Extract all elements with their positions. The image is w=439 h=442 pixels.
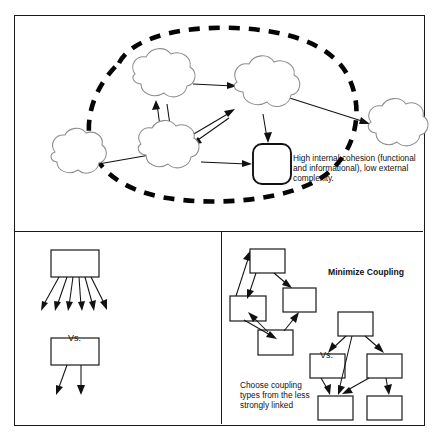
panel-fan-out: Vs. Minimize fan-out.High fan-out implie… — [15, 232, 222, 424]
fan-out-high-arrows — [41, 277, 107, 311]
panel-cohesion — [15, 16, 423, 232]
coupling-heading: Minimize Coupling — [328, 267, 404, 277]
coupling-tight-graph — [230, 249, 316, 355]
tree-node-root — [338, 312, 373, 336]
tight-node-left — [230, 296, 266, 321]
tight-node-right — [283, 288, 316, 312]
external-cloud-right — [368, 99, 428, 146]
internal-cloud-left — [138, 121, 199, 168]
coupling-body: Choose coupling types from the less stro… — [240, 380, 320, 410]
cohesion-caption: High internal cohesion (functional and i… — [293, 153, 417, 183]
internal-cloud-top — [133, 49, 195, 97]
tree-node-leaf-right — [367, 396, 402, 420]
figure-frame: Vs. Minimize fan-out.High fan-out implie… — [14, 15, 425, 426]
coupling-vs-label: Vs. — [320, 350, 333, 361]
fan-out-high-box — [51, 250, 99, 277]
internal-rounded-box — [253, 144, 291, 184]
internal-cloud-right — [234, 56, 299, 107]
cohesion-diagram — [15, 16, 423, 232]
external-cloud-left — [51, 128, 106, 173]
tree-node-mid-right — [367, 354, 402, 378]
fan-out-low-arrows — [56, 365, 85, 395]
fan-out-vs-label: Vs. — [68, 333, 81, 344]
fan-out-diagram — [15, 232, 222, 424]
coupling-tree-graph — [310, 312, 402, 420]
tree-node-leaf-left — [318, 396, 353, 420]
tight-node-top — [250, 249, 285, 273]
panel-coupling: Minimize CouplingVs.Choose coupling type… — [222, 232, 423, 424]
tight-node-bottom — [258, 330, 293, 355]
